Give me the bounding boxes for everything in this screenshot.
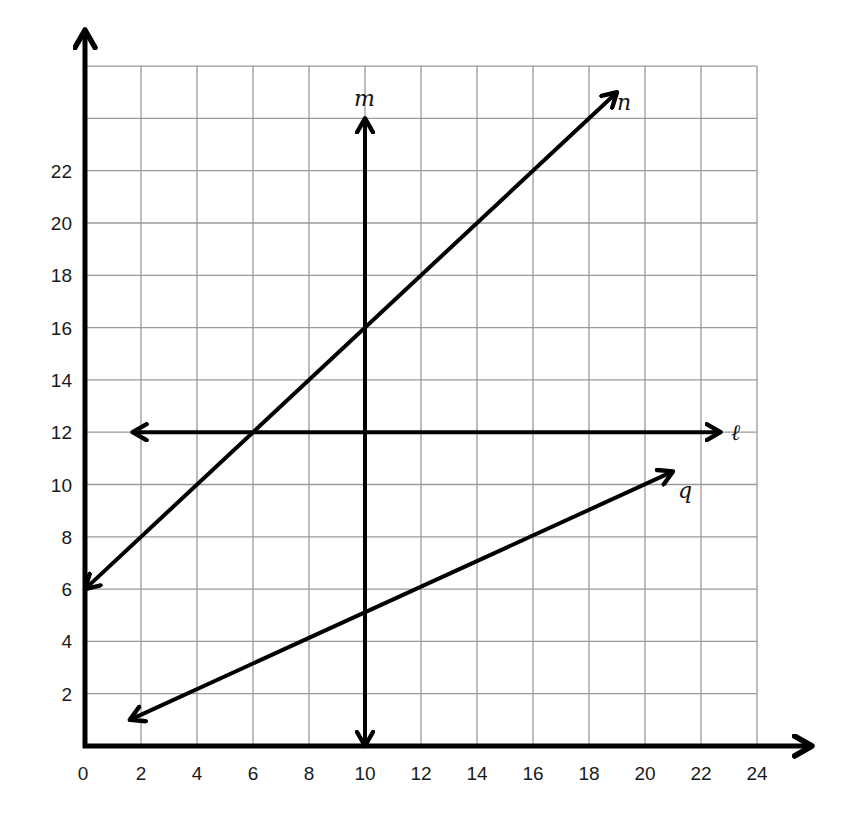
x-axis-tick-labels: 024681012141618202224 [78, 763, 768, 784]
x-tick-label: 6 [248, 763, 259, 784]
y-tick-label: 18 [51, 265, 72, 286]
y-tick-label: 4 [61, 631, 72, 652]
label-l: ℓ [731, 420, 741, 445]
x-tick-label: 8 [304, 763, 315, 784]
y-tick-label: 10 [51, 475, 72, 496]
y-tick-label: 8 [61, 527, 72, 548]
grid [85, 66, 757, 746]
label-m: m [354, 86, 375, 111]
label-q: q [678, 478, 692, 503]
x-tick-label: 0 [78, 763, 89, 784]
y-tick-label: 14 [51, 370, 73, 391]
x-tick-label: 16 [522, 763, 543, 784]
y-tick-label: 16 [51, 318, 72, 339]
x-tick-label: 14 [466, 763, 488, 784]
y-tick-label: 2 [61, 684, 72, 705]
label-n: n [617, 90, 631, 115]
x-tick-label: 2 [136, 763, 147, 784]
y-tick-label: 20 [51, 213, 72, 234]
y-axis-tick-labels: 246810121416182022 [51, 161, 73, 705]
x-tick-label: 22 [690, 763, 711, 784]
line-q [130, 471, 673, 719]
x-tick-label: 12 [410, 763, 431, 784]
x-tick-label: 24 [746, 763, 768, 784]
y-tick-label: 22 [51, 161, 72, 182]
line-n [85, 92, 617, 589]
y-tick-label: 6 [61, 579, 72, 600]
coordinate-plane: 024681012141618202224 246810121416182022… [0, 0, 853, 819]
x-tick-label: 10 [354, 763, 375, 784]
y-tick-label: 12 [51, 422, 72, 443]
x-tick-label: 20 [634, 763, 655, 784]
x-tick-label: 18 [578, 763, 599, 784]
x-tick-label: 4 [192, 763, 203, 784]
